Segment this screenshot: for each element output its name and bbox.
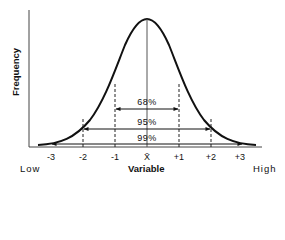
tick-plus1: +1 (174, 152, 184, 162)
tick-plus2: +2 (206, 152, 216, 162)
y-axis-label: Frequency (10, 48, 21, 96)
tick-mean: X̄ (144, 152, 150, 162)
tick-minus1: -1 (111, 152, 119, 162)
tick-minus2: -2 (79, 152, 87, 162)
low-label: Low (20, 163, 40, 174)
label-68: 68% (137, 97, 157, 107)
x-axis-label: Variable (128, 163, 164, 174)
label-99: 99% (137, 133, 157, 143)
label-95: 95% (137, 117, 157, 127)
tick-plus3: +3 (235, 152, 245, 162)
high-label: High (253, 163, 277, 174)
tick-minus3: -3 (47, 152, 55, 162)
